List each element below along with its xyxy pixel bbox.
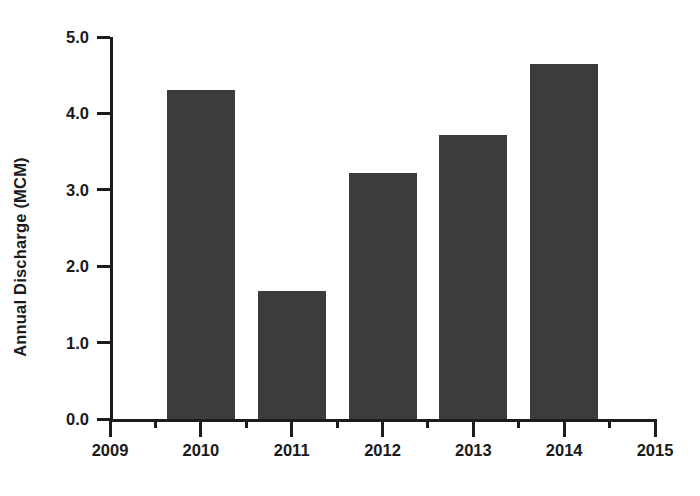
x-axis-minor-tick	[154, 419, 157, 428]
y-axis-tick: 3.0	[97, 188, 110, 191]
x-axis-tick-label: 2011	[274, 441, 310, 460]
y-axis-tick: 2.0	[97, 265, 110, 268]
x-axis-minor-tick	[608, 419, 611, 428]
y-axis-tick-label: 2.0	[66, 257, 89, 276]
x-axis-tick-label: 2014	[546, 441, 583, 460]
y-axis-tick-label: 0.0	[66, 410, 89, 429]
y-axis-tick: 5.0	[97, 36, 110, 39]
y-axis-tick-label: 3.0	[66, 180, 89, 199]
y-axis-tick: 1.0	[97, 341, 110, 344]
bar	[258, 291, 326, 419]
y-axis-tick-label: 5.0	[66, 28, 89, 47]
x-axis-minor-tick	[426, 419, 429, 428]
y-axis-title-label: Annual Discharge (MCM)	[11, 157, 30, 357]
x-axis-tick	[199, 419, 202, 437]
x-axis-tick	[563, 419, 566, 437]
bar	[530, 64, 598, 419]
x-axis-tick	[109, 419, 112, 437]
x-axis-tick-label: 2013	[455, 441, 492, 460]
y-axis-tick: 4.0	[97, 112, 110, 115]
x-axis-minor-tick	[245, 419, 248, 428]
y-axis-tick-label: 1.0	[66, 333, 89, 352]
y-axis-title: Annual Discharge (MCM)	[0, 0, 40, 496]
x-axis-minor-tick	[517, 419, 520, 428]
bar	[349, 173, 417, 419]
y-axis-tick-label: 4.0	[66, 104, 89, 123]
bar	[167, 90, 235, 419]
bar-chart: Annual Discharge (MCM) 0.01.02.03.04.05.…	[0, 0, 700, 496]
bar	[439, 135, 507, 419]
x-axis-tick	[472, 419, 475, 437]
x-axis-tick	[381, 419, 384, 437]
x-axis-tick-label: 2015	[637, 441, 674, 460]
x-axis-tick-label: 2009	[92, 441, 129, 460]
x-axis-tick-label: 2010	[182, 441, 219, 460]
x-axis-tick-label: 2012	[364, 441, 401, 460]
x-axis-tick	[290, 419, 293, 437]
x-axis-tick	[654, 419, 657, 437]
plot-area: 0.01.02.03.04.05.0 200920102011201220132…	[110, 37, 655, 419]
x-axis-minor-tick	[336, 419, 339, 428]
y-axis-spine	[110, 37, 113, 419]
